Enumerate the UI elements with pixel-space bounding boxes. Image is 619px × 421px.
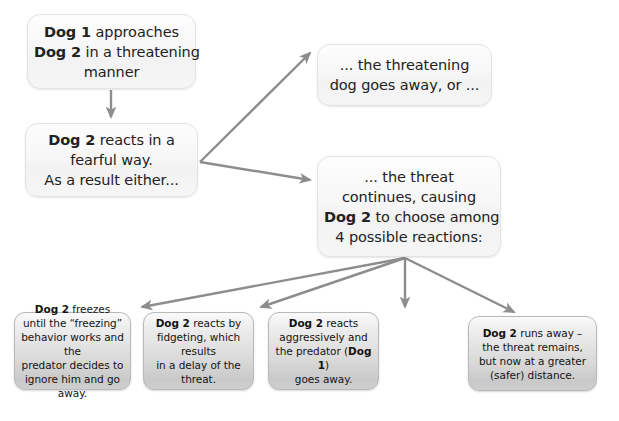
node-threatening-dog-goes-away: ... the threateningdog goes away, or ... [317, 44, 492, 106]
flowchart-canvas: Dog 1 approachesDog 2 in a threateningma… [0, 0, 619, 421]
node-line: dog goes away, or ... [324, 75, 485, 95]
node-line: but now at a greater [475, 354, 590, 368]
node-line: aggressively and [275, 330, 372, 344]
arrow-n2-to-n3 [200, 53, 310, 162]
node-threat-continues-four-reactions: ... the threatcontinues, causingDog 2 to… [317, 156, 501, 257]
node-line: Dog 2 to choose among [324, 207, 494, 227]
node-line: Dog 2 reacts in a [32, 130, 191, 150]
node-reaction-run-away: Dog 2 runs away –the threat remains,but … [468, 316, 597, 391]
node-reaction-freeze: Dog 2 freezesuntil the “freezing”behavio… [14, 312, 131, 390]
node-line: continues, causing [324, 187, 494, 207]
node-line: ... the threat [324, 167, 494, 187]
node-line: 4 possible reactions: [324, 227, 494, 247]
node-line: ignore him and go away. [21, 372, 124, 400]
arrow-n4-to-n5 [142, 258, 405, 307]
node-label: Dog 2 reacts in afearful way.As a result… [26, 130, 197, 190]
node-line: the predator (Dog 1) [275, 344, 372, 372]
node-line: As a result either... [32, 170, 191, 190]
node-dog1-approaches: Dog 1 approachesDog 2 in a threateningma… [27, 14, 196, 89]
node-label: ... the threateningdog goes away, or ... [318, 55, 491, 95]
node-label: Dog 2 runs away –the threat remains,but … [469, 326, 596, 382]
node-line: Dog 1 approaches [34, 22, 189, 42]
node-label: Dog 2 reacts byfidgeting, which resultsi… [144, 316, 253, 386]
node-line: until the “freezing” [21, 316, 124, 330]
node-line: Dog 2 runs away – [475, 326, 590, 340]
node-line: ... the threatening [324, 55, 485, 75]
node-label: Dog 1 approachesDog 2 in a threateningma… [28, 22, 195, 82]
node-reaction-aggressive: Dog 2 reactsaggressively andthe predator… [268, 312, 379, 390]
arrow-n2-to-n4 [200, 162, 310, 180]
node-line: in a delay of the threat. [150, 358, 247, 386]
node-label: Dog 2 reactsaggressively andthe predator… [269, 316, 378, 386]
node-reaction-fidget: Dog 2 reacts byfidgeting, which resultsi… [143, 312, 254, 390]
node-line: fidgeting, which results [150, 330, 247, 358]
arrow-n4-to-n8 [405, 258, 514, 312]
node-line: Dog 2 in a threatening [34, 42, 189, 62]
arrow-n4-to-n6 [261, 258, 405, 307]
node-line: Dog 2 freezes [21, 302, 124, 316]
node-line: the threat remains, [475, 340, 590, 354]
node-line: goes away. [275, 372, 372, 386]
node-line: manner [34, 62, 189, 82]
node-label: Dog 2 freezesuntil the “freezing”behavio… [15, 302, 130, 400]
node-label: ... the threatcontinues, causingDog 2 to… [318, 167, 500, 247]
node-dog2-reacts-fearful: Dog 2 reacts in afearful way.As a result… [25, 123, 198, 197]
node-line: Dog 2 reacts by [150, 316, 247, 330]
node-line: fearful way. [32, 150, 191, 170]
node-line: Dog 2 reacts [275, 316, 372, 330]
node-line: (safer) distance. [475, 368, 590, 382]
node-line: predator decides to [21, 358, 124, 372]
node-line: behavior works and the [21, 330, 124, 358]
